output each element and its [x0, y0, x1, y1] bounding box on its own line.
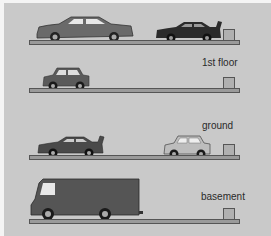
floor-basement — [29, 219, 240, 224]
level-label-ground: ground — [202, 120, 233, 131]
level-label-1st-floor: 1st floor — [202, 57, 238, 68]
level-label-basement: basement — [201, 191, 245, 202]
diagram-panel: 1st floor ground basement — [4, 3, 271, 236]
floor-top — [29, 40, 240, 45]
floor-ground — [29, 155, 240, 160]
delivery-van — [27, 175, 147, 221]
floor-1st — [29, 88, 240, 93]
